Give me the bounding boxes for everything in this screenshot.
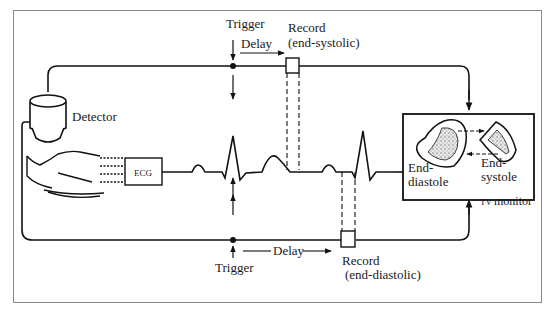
record-gate-end-systolic [286, 58, 299, 73]
trigger-bottom-label: Trigger [215, 260, 254, 275]
ecg-waveform [162, 131, 397, 180]
trigger-node-bottom [230, 237, 236, 243]
detector-icon [30, 95, 66, 142]
end-systole-sublabel: systole [481, 169, 517, 184]
record-bottom-label: Record [342, 253, 380, 268]
end-diastole-label: End- [408, 160, 433, 175]
monitor-label: monitor [494, 194, 532, 208]
end-diastole-sublabel: diastole [408, 174, 449, 189]
top-signal-line [48, 66, 469, 100]
ecg-label: ECG [134, 168, 153, 178]
gated-blood-pool-diagram: Trigger Delay Record (end-systolic) Dete… [0, 0, 555, 320]
record-gate-end-diastolic [341, 231, 355, 247]
delay-bottom-label: Delay [273, 243, 305, 258]
end-systole-label: End- [481, 155, 506, 170]
patient-arm-icon [27, 151, 104, 197]
detector-label: Detector [72, 109, 117, 124]
delay-top-label: Delay [241, 36, 273, 51]
tv-label: TV [480, 197, 492, 207]
record-top-sublabel: (end-systolic) [288, 35, 359, 50]
trigger-top-label: Trigger [226, 16, 265, 31]
electrode-leads-icon [100, 158, 124, 182]
record-top-label: Record [288, 20, 326, 35]
record-bottom-sublabel: (end-diastolic) [345, 267, 421, 282]
trigger-node-top [230, 63, 236, 69]
